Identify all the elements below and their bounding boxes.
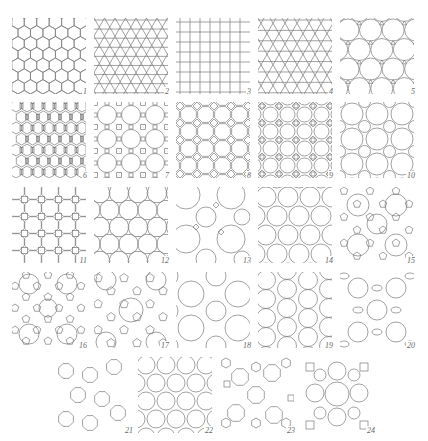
tiling-pattern bbox=[176, 18, 250, 94]
tiling-panel-5: 5 bbox=[340, 18, 414, 94]
tiling-pattern bbox=[258, 272, 332, 348]
tiling-panel-2: 2 bbox=[94, 18, 168, 94]
panel-number-label: 2 bbox=[164, 87, 170, 96]
tiling-pattern bbox=[94, 272, 168, 348]
tiling-panel-20: 20 bbox=[340, 272, 414, 348]
tiling-pattern bbox=[300, 357, 374, 433]
tiling-pattern bbox=[176, 272, 250, 348]
tiling-panel-22: 22 bbox=[138, 357, 212, 433]
panel-number-label: 6 bbox=[82, 171, 88, 180]
panel-number-label: 18 bbox=[242, 341, 252, 350]
panel-number-label: 13 bbox=[242, 256, 252, 265]
panel-number-label: 15 bbox=[406, 256, 416, 265]
tiling-pattern bbox=[12, 18, 86, 94]
tiling-pattern bbox=[258, 102, 332, 178]
tiling-pattern bbox=[340, 102, 414, 178]
tiling-panel-13: 13 bbox=[176, 187, 250, 263]
tiling-pattern bbox=[12, 272, 86, 348]
tiling-panel-17: 17 bbox=[94, 272, 168, 348]
tiling-pattern bbox=[94, 187, 168, 263]
tiling-panel-8: 8 bbox=[176, 102, 250, 178]
tiling-pattern bbox=[176, 102, 250, 178]
panel-number-label: 4 bbox=[328, 87, 334, 96]
panel-number-label: 20 bbox=[406, 341, 416, 350]
panel-number-label: 17 bbox=[160, 341, 170, 350]
tiling-panel-7: 7 bbox=[94, 102, 168, 178]
panel-number-label: 21 bbox=[124, 426, 134, 435]
tiling-panel-23: 23 bbox=[220, 357, 294, 433]
panel-number-label: 10 bbox=[406, 171, 416, 180]
tiling-pattern bbox=[258, 18, 332, 94]
panel-number-label: 22 bbox=[204, 426, 214, 435]
tiling-panel-24: 24 bbox=[300, 357, 374, 433]
tiling-panel-6: 6 bbox=[12, 102, 86, 178]
tiling-pattern bbox=[220, 357, 294, 433]
tiling-pattern bbox=[258, 187, 332, 263]
panel-number-label: 19 bbox=[324, 341, 334, 350]
tiling-panel-10: 10 bbox=[340, 102, 414, 178]
tiling-panel-11: 11 bbox=[12, 187, 86, 263]
tiling-panel-14: 14 bbox=[258, 187, 332, 263]
panel-number-label: 8 bbox=[246, 171, 252, 180]
panel-number-label: 3 bbox=[246, 87, 252, 96]
panel-number-label: 1 bbox=[82, 87, 88, 96]
tiling-pattern bbox=[340, 187, 414, 263]
panel-number-label: 16 bbox=[78, 341, 88, 350]
tiling-panel-9: 9 bbox=[258, 102, 332, 178]
panel-number-label: 14 bbox=[324, 256, 334, 265]
tiling-panel-19: 19 bbox=[258, 272, 332, 348]
panel-number-label: 7 bbox=[164, 171, 170, 180]
tiling-panel-16: 16 bbox=[12, 272, 86, 348]
tiling-panel-18: 18 bbox=[176, 272, 250, 348]
tiling-pattern bbox=[138, 357, 212, 433]
panel-number-label: 12 bbox=[160, 256, 170, 265]
tiling-panel-12: 12 bbox=[94, 187, 168, 263]
tiling-pattern bbox=[12, 187, 86, 263]
tiling-pattern bbox=[176, 187, 250, 263]
tiling-pattern bbox=[340, 18, 414, 94]
tiling-pattern bbox=[94, 102, 168, 178]
tiling-pattern bbox=[94, 18, 168, 94]
panel-number-label: 5 bbox=[410, 87, 416, 96]
tiling-pattern bbox=[12, 102, 86, 178]
tiling-pattern bbox=[58, 357, 132, 433]
tiling-panel-15: 15 bbox=[340, 187, 414, 263]
tiling-pattern bbox=[340, 272, 414, 348]
panel-number-label: 23 bbox=[286, 426, 296, 435]
tiling-panel-21: 21 bbox=[58, 357, 132, 433]
panel-number-label: 24 bbox=[366, 426, 376, 435]
tiling-panel-1: 1 bbox=[12, 18, 86, 94]
panel-number-label: 11 bbox=[79, 256, 88, 265]
tiling-panel-3: 3 bbox=[176, 18, 250, 94]
panel-number-label: 9 bbox=[328, 171, 334, 180]
tiling-panel-4: 4 bbox=[258, 18, 332, 94]
